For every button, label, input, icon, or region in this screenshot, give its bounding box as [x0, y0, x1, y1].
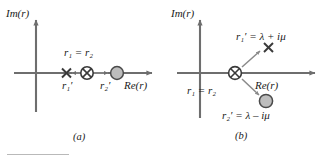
- arrow-to-upper-root-b: [242, 51, 260, 67]
- marker-cross-x-b: [264, 43, 273, 52]
- lower-root-label-b: r₂′ = λ – iμ: [222, 110, 270, 121]
- real-axis-label-b: Re(r): [255, 80, 278, 91]
- right-root-label-a: r₂′: [100, 80, 111, 91]
- double-root-label-a: r₁ = r₂: [64, 47, 93, 58]
- panel-b-plot: [165, 0, 331, 156]
- marker-filled-circle-b: [259, 94, 272, 107]
- bottom-divider: [7, 154, 69, 155]
- marker-crossed-circle-a: [81, 67, 93, 79]
- upper-root-label-b: r₁′ = λ + iμ: [236, 31, 286, 42]
- marker-crossed-circle-b: [229, 67, 242, 80]
- real-axis-label-a: Re(r): [124, 80, 147, 91]
- left-root-label-a: r₁′: [62, 80, 73, 91]
- marker-filled-circle-a: [111, 67, 124, 80]
- panel-b: Im(r) Re(r) r₁′ = λ + iμ r₁ = r₂ r₂′ = λ…: [165, 0, 331, 156]
- panel-a: Im(r) Re(r) r₁ = r₂ r₁′ r₂′ (a): [0, 0, 165, 156]
- root-locus-figure: Im(r) Re(r) r₁ = r₂ r₁′ r₂′ (a): [0, 0, 331, 156]
- imaginary-axis-label-b: Im(r): [171, 8, 194, 19]
- imaginary-axis-label-a: Im(r): [6, 8, 29, 19]
- double-root-label-b: r₁ = r₂: [187, 85, 216, 96]
- caption-a: (a): [73, 131, 85, 142]
- caption-b: (b): [235, 130, 247, 141]
